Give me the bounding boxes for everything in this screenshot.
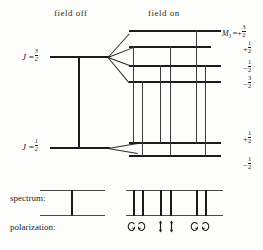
m-label-minus-3-2: −32	[243, 76, 252, 91]
m-sign-minus-1-2: −	[243, 64, 248, 73]
fan-line-upper-1	[108, 33, 130, 58]
m-head-symbol: M	[222, 29, 229, 38]
spectrum-line-on-6	[205, 190, 207, 216]
m-sign-lower-minus-1-2: −	[243, 161, 248, 170]
m-label-lower-minus-1-2: −12	[243, 157, 252, 172]
m-fraction-minus-1-2: 12	[248, 59, 251, 74]
transition-line-4	[170, 46, 171, 156]
level-label-lower-text: J =	[22, 142, 34, 152]
m-fraction-lower-plus-1-2: 12	[248, 130, 251, 145]
zero-field-transition-line	[78, 56, 80, 148]
sublevel-upper-m-minus-1-2	[129, 65, 221, 67]
transition-line-3	[160, 65, 161, 143]
level-label-upper-text: J =	[22, 52, 34, 62]
m-label-plus-1-2: +12	[243, 41, 252, 56]
header-field-off: field off	[54, 8, 88, 18]
sigma-arrow-icon	[190, 221, 199, 232]
spectrum-line-on-2	[142, 190, 144, 216]
m-fraction-lower-minus-1-2: 12	[248, 156, 251, 171]
pi-arrow-icon	[168, 220, 175, 233]
transition-line-5	[196, 30, 197, 143]
sigma-arrow-icon	[127, 221, 136, 232]
spectrum-line-on-1	[133, 190, 135, 216]
m-fraction-plus-1-2: 12	[248, 40, 251, 55]
transition-line-1	[133, 46, 134, 143]
m-sign-lower-plus-1-2: +	[243, 135, 248, 144]
transition-line-2	[142, 81, 143, 156]
transition-line-6	[205, 65, 206, 156]
row-label-spectrum: spectrum:	[10, 193, 46, 203]
m-label-lower-plus-1-2: +12	[243, 131, 252, 146]
level-label-upper-fraction: 32	[35, 48, 38, 63]
level-label-lower: J =12	[22, 139, 39, 154]
sigma-arrow-icon	[201, 221, 210, 232]
zero-field-level-lower	[50, 147, 110, 149]
m-fraction-plus-3-2: 32	[242, 24, 245, 39]
header-field-on: field on	[148, 8, 180, 18]
m-label-minus-1-2: −12	[243, 60, 252, 75]
m-sign-minus-3-2: −	[243, 80, 248, 89]
m-fraction-minus-3-2: 32	[248, 75, 251, 90]
spectrum-line-on-4	[170, 190, 172, 216]
level-label-upper: J =32	[22, 49, 39, 64]
sigma-arrow-icon	[137, 221, 146, 232]
m-label-plus-3-2: MJ =+32	[222, 25, 246, 40]
m-sign-plus-3-2: +	[237, 29, 242, 38]
spectrum-baseline-on-top	[126, 190, 223, 191]
fan-line-lower-2	[108, 148, 138, 154]
zero-field-level-upper	[50, 56, 110, 58]
spectrum-line-on-5	[196, 190, 198, 216]
level-label-lower-fraction: 12	[35, 138, 38, 153]
pi-arrow-icon	[157, 220, 164, 233]
spectrum-baseline-on-bottom	[126, 215, 223, 216]
row-label-polarization: polarization:	[10, 222, 55, 232]
zeeman-diagram: field off field on J =32 J =12 MJ =+32 +…	[0, 0, 263, 250]
m-sign-plus-1-2: +	[243, 45, 248, 54]
spectrum-line-on-3	[160, 190, 162, 216]
sublevel-upper-m-plus-3-2	[129, 30, 221, 32]
spectrum-line-off-1	[71, 190, 73, 216]
m-head-subscript: J	[229, 33, 231, 39]
